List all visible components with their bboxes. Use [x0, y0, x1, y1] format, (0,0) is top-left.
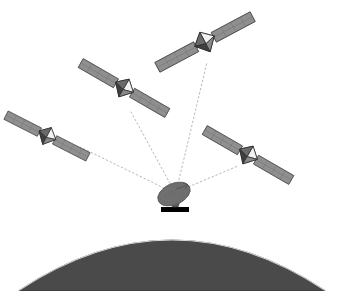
satellite-4: [200, 121, 297, 189]
link-satellite-2: [131, 112, 172, 187]
satellite-diagram: Satellite constellation communicating wi…: [0, 0, 344, 291]
diagram-canvas: [0, 0, 344, 291]
link-satellite-3: [80, 147, 168, 190]
satellite-3: [2, 107, 92, 165]
ground-station-group: [154, 177, 194, 212]
link-satellite-1: [177, 62, 207, 188]
antenna-base-mount: [161, 207, 189, 212]
earth-group: [18, 240, 326, 291]
satellite-1: [152, 7, 258, 77]
